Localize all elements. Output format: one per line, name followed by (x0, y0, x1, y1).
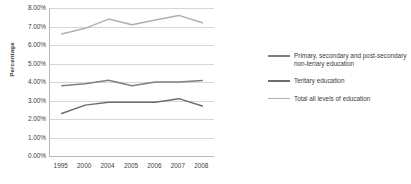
y-axis-tick-label: 7.00% (16, 23, 46, 29)
y-axis-tick-label: 3.00% (16, 97, 46, 103)
legend-item-label: Primary, secondary and post-secondary no… (294, 52, 410, 68)
legend-item-label: Total all levels of education (294, 95, 370, 103)
line-chart: Percentage 8.00%7.00%6.00%5.00%4.00%3.00… (0, 0, 411, 184)
gridline (50, 156, 214, 157)
series-line (62, 80, 203, 86)
y-axis-tick-label: 0.00% (16, 153, 46, 159)
legend-line-icon (268, 52, 290, 60)
y-axis-tick-label: 4.00% (16, 79, 46, 85)
y-axis-tick-label: 1.00% (16, 134, 46, 140)
legend-line-icon (268, 95, 290, 103)
series-line (62, 99, 203, 114)
legend-item[interactable]: Teritary education (268, 77, 411, 85)
legend-item-label: Teritary education (294, 77, 344, 85)
x-axis-tick-label: 2008 (184, 162, 218, 170)
series-line (62, 15, 203, 34)
legend-item[interactable]: Primary, secondary and post-secondary no… (268, 52, 411, 68)
legend-line-icon (268, 77, 290, 85)
x-axis-tick-labels: 1995200020042005200620072008 (49, 162, 214, 176)
y-axis-tick-label: 6.00% (16, 42, 46, 48)
y-axis-tick-labels: 8.00%7.00%6.00%5.00%4.00%3.00%2.00%1.00%… (16, 0, 46, 156)
plot-area (49, 8, 214, 157)
chart-legend: Primary, secondary and post-secondary no… (268, 52, 411, 112)
series-lines (50, 8, 214, 156)
y-axis-tick-label: 2.00% (16, 116, 46, 122)
y-axis-tick-label: 5.00% (16, 60, 46, 66)
y-axis-title: Percentage (8, 25, 15, 95)
legend-item[interactable]: Total all levels of education (268, 95, 411, 103)
y-axis-tick-label: 8.00% (16, 5, 46, 11)
